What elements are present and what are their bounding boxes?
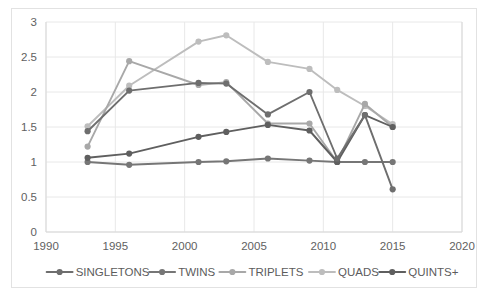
data-point: [195, 159, 201, 165]
data-point: [306, 127, 312, 133]
data-point: [126, 162, 132, 168]
series-line: [88, 115, 393, 162]
y-tick-label: 0.5: [21, 191, 37, 203]
data-point: [223, 32, 229, 38]
x-tick-label: 2015: [380, 240, 406, 252]
data-point: [265, 59, 271, 65]
series-triplets: [85, 58, 396, 165]
data-point: [306, 158, 312, 164]
x-tick-label: 2010: [311, 240, 337, 252]
x-tick-label: 1995: [103, 240, 129, 252]
x-tick-label: 1990: [33, 240, 59, 252]
y-tick-label: 2: [31, 86, 37, 98]
data-point: [265, 155, 271, 161]
line-chart: 00.511.522.53 19901995200020052010201520…: [0, 0, 493, 300]
y-tick-label: 0: [31, 226, 37, 238]
data-point: [390, 159, 396, 165]
data-point: [223, 158, 229, 164]
x-axis-tick-labels: 1990199520002005201020152020: [33, 240, 475, 252]
chart-canvas: 00.511.522.53 19901995200020052010201520…: [0, 0, 493, 300]
x-tick-label: 2000: [172, 240, 198, 252]
data-point: [306, 66, 312, 72]
series-line: [88, 35, 393, 126]
data-point: [85, 155, 91, 161]
data-point: [306, 89, 312, 95]
data-point: [390, 124, 396, 130]
legend-item-triplets[interactable]: TRIPLETS: [219, 266, 303, 278]
data-point: [126, 88, 132, 94]
x-tick-label: 2020: [449, 240, 475, 252]
data-point: [265, 111, 271, 117]
data-point: [195, 39, 201, 45]
legend-label: QUADS: [338, 266, 379, 278]
data-point: [362, 159, 368, 165]
legend-dot-marker: [389, 269, 395, 275]
data-point: [126, 58, 132, 64]
legend-item-twins[interactable]: TWINS: [149, 266, 215, 278]
legend-dot-marker: [319, 269, 325, 275]
data-point: [265, 122, 271, 128]
data-point: [195, 134, 201, 140]
data-series-group: [85, 32, 396, 192]
data-point: [126, 151, 132, 157]
data-point: [362, 101, 368, 107]
data-point: [85, 128, 91, 134]
legend-item-quintsplus[interactable]: QUINTS+: [379, 266, 458, 278]
legend-dot-marker: [57, 269, 63, 275]
data-point: [334, 87, 340, 93]
data-point: [362, 112, 368, 118]
x-tick-label: 2005: [241, 240, 267, 252]
legend-item-quads[interactable]: QUADS: [309, 266, 379, 278]
y-tick-label: 2.5: [21, 51, 37, 63]
series-line: [88, 83, 393, 189]
legend-dot-marker: [159, 269, 165, 275]
data-point: [390, 186, 396, 192]
y-tick-label: 1: [31, 156, 37, 168]
legend-item-singletons[interactable]: SINGLETONS: [47, 266, 150, 278]
data-point: [223, 81, 229, 87]
data-point: [85, 144, 91, 150]
data-point: [306, 120, 312, 126]
data-point: [223, 129, 229, 135]
y-tick-label: 1.5: [21, 121, 37, 133]
legend-label: TWINS: [178, 266, 215, 278]
legend-label: SINGLETONS: [76, 266, 150, 278]
legend-label: TRIPLETS: [248, 266, 303, 278]
series-quads: [85, 32, 396, 129]
y-tick-label: 3: [31, 16, 37, 28]
data-point: [195, 80, 201, 86]
y-axis-tick-labels: 00.511.522.53: [21, 16, 37, 238]
data-point: [334, 155, 340, 161]
legend-dot-marker: [229, 269, 235, 275]
legend-label: QUINTS+: [408, 266, 458, 278]
chart-legend: SINGLETONSTWINSTRIPLETSQUADSQUINTS+: [47, 266, 459, 278]
